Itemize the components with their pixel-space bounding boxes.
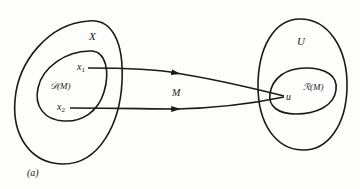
point-x1-label: x1 — [76, 61, 85, 74]
domain-of-m-boundary — [37, 51, 107, 121]
domain-of-m: 𝒟(M) — [37, 51, 107, 121]
panel-label: (a) — [27, 167, 39, 179]
range-of-m-label: ℛ(M) — [303, 82, 324, 92]
edge-x1-to-u-tail — [176, 73, 284, 96]
mapping-label: M — [171, 87, 181, 98]
set-x-boundary — [15, 21, 123, 164]
edge-x1-to-u — [88, 68, 176, 73]
range-of-m: ℛ(M) — [270, 68, 336, 114]
set-x: X — [15, 21, 123, 164]
domain-of-m-label: 𝒟(M) — [50, 81, 71, 91]
point-u-label: u — [286, 91, 291, 102]
set-x-label: X — [88, 30, 97, 42]
edge-x2-to-u — [70, 108, 176, 109]
mapping-diagram: X 𝒟(M) x1 x2 U ℛ(M) u M (a) — [0, 0, 360, 189]
edge-x2-to-u-tail — [176, 97, 284, 109]
set-u-label: U — [297, 35, 306, 47]
point-x2-label: x2 — [56, 101, 65, 114]
